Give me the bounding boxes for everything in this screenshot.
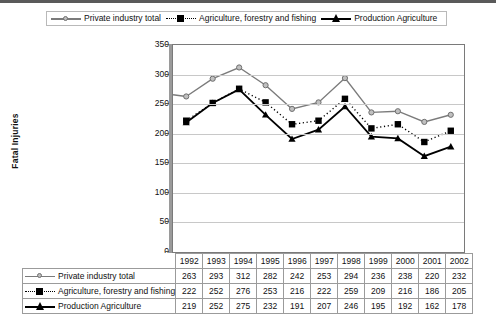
table-value-cell: 276 <box>230 284 257 299</box>
table-value-cell: 263 <box>176 269 203 284</box>
y-axis-tick-label: 100 <box>133 187 169 197</box>
table-year-header: 1995 <box>257 254 284 269</box>
square-black-dotted-line-icon <box>166 14 196 23</box>
table-year-header: 1998 <box>338 254 365 269</box>
legend-label: Production Agriculture <box>354 14 437 23</box>
table-year-header: 1992 <box>176 254 203 269</box>
gridline <box>173 163 464 164</box>
table-value-cell: 195 <box>365 299 392 314</box>
table-year-header: 2000 <box>392 254 419 269</box>
table-row: Private industry total263293312282242253… <box>23 269 473 284</box>
data-point <box>315 118 321 124</box>
table-value-cell: 252 <box>203 299 230 314</box>
table-value-cell: 238 <box>392 269 419 284</box>
y-axis-tick-label: 300 <box>133 69 169 79</box>
data-point <box>237 65 242 70</box>
table-value-cell: 253 <box>257 284 284 299</box>
table-value-cell: 205 <box>446 284 473 299</box>
table-header-row: 1992199319941995199619971998199920002001… <box>23 254 473 269</box>
circle-gray-solid-line-icon <box>51 14 81 23</box>
chart-area: Fatal Injuries 350300250200150100500 <box>0 30 496 260</box>
table-value-cell: 232 <box>257 299 284 314</box>
y-axis-tick-label: 200 <box>133 128 169 138</box>
top-rule <box>0 0 496 3</box>
data-point <box>447 143 454 149</box>
y-axis-title: Fatal Injuries <box>10 96 20 186</box>
table-value-cell: 219 <box>176 299 203 314</box>
table-value-cell: 192 <box>392 299 419 314</box>
table-row-label: Agriculture, forestry and fishing <box>58 286 175 296</box>
table-row-label-cell: Private industry total <box>23 269 176 284</box>
table-value-cell: 282 <box>257 269 284 284</box>
table-value-cell: 216 <box>284 284 311 299</box>
table-value-cell: 216 <box>392 284 419 299</box>
data-point <box>422 119 427 124</box>
legend-item-production-agriculture: Production Agriculture <box>321 14 442 23</box>
y-axis-tick-label: 50 <box>133 216 169 226</box>
table-row-label-cell: Agriculture, forestry and fishing <box>23 284 176 299</box>
data-point <box>395 109 400 114</box>
table-value-cell: 186 <box>419 284 446 299</box>
y-axis-tick-label: 150 <box>133 157 169 167</box>
data-point <box>448 112 453 117</box>
table-year-header: 1997 <box>311 254 338 269</box>
table-year-header: 2002 <box>446 254 473 269</box>
table-row-label: Private industry total <box>58 271 135 281</box>
data-point <box>289 121 295 127</box>
table-row-label-cell: Production Agriculture <box>23 299 176 314</box>
gridline <box>173 193 464 194</box>
table-value-cell: 162 <box>419 299 446 314</box>
table-year-header: 1994 <box>230 254 257 269</box>
series-lines <box>173 45 464 252</box>
table-value-cell: 275 <box>230 299 257 314</box>
y-axis-tick-label: 250 <box>133 98 169 108</box>
y-axis-ticks: 350300250200150100500 <box>124 30 169 260</box>
data-point <box>342 76 347 81</box>
circle-gray-solid-line-icon <box>25 272 55 281</box>
chart-legend: Private industry total Agriculture, fore… <box>46 11 447 26</box>
data-point <box>368 125 374 131</box>
table-corner-cell <box>23 254 176 269</box>
table-row: Agriculture, forestry and fishing2222522… <box>23 284 473 299</box>
legend-label: Agriculture, forestry and fishing <box>199 14 316 23</box>
data-table: 1992199319941995199619971998199920002001… <box>22 253 473 314</box>
table-value-cell: 232 <box>446 269 473 284</box>
table-value-cell: 222 <box>311 284 338 299</box>
legend-item-private-industry-total: Private industry total <box>51 14 166 23</box>
table-value-cell: 259 <box>338 284 365 299</box>
plot-area <box>172 44 465 253</box>
data-point <box>263 83 268 88</box>
data-point <box>210 76 215 81</box>
table-value-cell: 191 <box>284 299 311 314</box>
table-value-cell: 293 <box>203 269 230 284</box>
table-year-header: 2001 <box>419 254 446 269</box>
data-point <box>395 121 401 127</box>
series-2 <box>183 86 454 146</box>
table-value-cell: 246 <box>338 299 365 314</box>
table-value-cell: 236 <box>365 269 392 284</box>
table-row-label: Production Agriculture <box>58 301 141 311</box>
data-point <box>289 106 294 111</box>
data-point <box>421 139 427 145</box>
table-value-cell: 220 <box>419 269 446 284</box>
square-black-dotted-line-icon <box>25 287 55 296</box>
table-year-header: 1999 <box>365 254 392 269</box>
table-value-cell: 242 <box>284 269 311 284</box>
gridline <box>173 75 464 76</box>
y-axis-tick-label: 350 <box>133 39 169 49</box>
legend-item-agriculture-forestry-fishing: Agriculture, forestry and fishing <box>166 14 321 23</box>
data-point <box>369 110 374 115</box>
gridline <box>173 222 464 223</box>
table-row: Production Agriculture219252275232191207… <box>23 299 473 314</box>
data-point <box>184 94 189 99</box>
triangle-black-solid-line-icon <box>25 302 55 311</box>
triangle-black-solid-line-icon <box>321 14 351 23</box>
table-value-cell: 253 <box>311 269 338 284</box>
table-value-cell: 222 <box>176 284 203 299</box>
series-line <box>186 68 451 122</box>
table-year-header: 1996 <box>284 254 311 269</box>
table-value-cell: 312 <box>230 269 257 284</box>
table-value-cell: 294 <box>338 269 365 284</box>
gridline <box>173 104 464 105</box>
table-year-header: 1993 <box>203 254 230 269</box>
